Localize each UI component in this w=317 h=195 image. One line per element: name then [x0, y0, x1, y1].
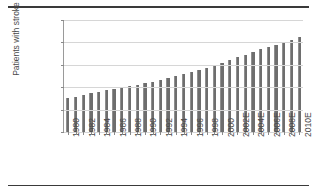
bar — [143, 83, 146, 132]
x-tick-mark — [106, 132, 107, 135]
x-tick-mark — [199, 132, 200, 135]
x-tick-mark — [237, 132, 238, 135]
bar-series — [64, 20, 303, 132]
chart-figure: Patients with stroke 3,000,0003,500,0004… — [0, 0, 317, 195]
bar — [236, 57, 239, 132]
y-gridline — [64, 20, 303, 21]
y-axis-title: Patients with stroke — [11, 0, 23, 94]
x-tick-label: 2010E — [303, 112, 313, 137]
y-gridline — [64, 65, 303, 66]
x-tick-mark — [222, 132, 223, 135]
y-tick-mark — [61, 42, 64, 43]
x-tick-mark — [160, 132, 161, 135]
x-tick-mark — [122, 132, 123, 135]
x-tick-mark — [214, 132, 215, 135]
x-tick-mark — [83, 132, 84, 135]
bar — [97, 92, 100, 132]
x-tick-mark — [114, 132, 115, 135]
y-tick-mark — [61, 132, 64, 133]
x-tick-mark — [291, 132, 292, 135]
x-tick-mark — [184, 132, 185, 135]
x-tick-mark — [276, 132, 277, 135]
top-divider-rule — [8, 6, 309, 8]
x-tick-mark — [153, 132, 154, 135]
x-tick-mark — [230, 132, 231, 135]
bar — [174, 76, 177, 132]
y-tick-mark — [61, 87, 64, 88]
y-gridline — [64, 42, 303, 43]
bar — [205, 68, 208, 133]
x-tick-mark — [145, 132, 146, 135]
x-tick-mark — [284, 132, 285, 135]
y-tick-mark — [61, 20, 64, 21]
x-tick-mark — [99, 132, 100, 135]
x-tick-mark — [91, 132, 92, 135]
bar — [298, 37, 301, 132]
bar — [190, 72, 193, 132]
x-tick-mark — [191, 132, 192, 135]
x-tick-mark — [245, 132, 246, 135]
x-tick-mark — [137, 132, 138, 135]
x-tick-mark — [68, 132, 69, 135]
y-tick-mark — [61, 65, 64, 66]
x-tick-mark — [207, 132, 208, 135]
x-tick-mark — [268, 132, 269, 135]
x-tick-mark — [168, 132, 169, 135]
x-tick-mark — [176, 132, 177, 135]
y-gridline — [64, 87, 303, 88]
bottom-divider-rule — [8, 185, 309, 186]
bar — [82, 95, 85, 132]
y-tick-mark — [61, 110, 64, 111]
plot-area: 3,000,0003,500,0004,000,0004,500,0005,00… — [63, 20, 303, 133]
bar — [267, 47, 270, 132]
x-tick-mark — [253, 132, 254, 135]
y-gridline — [64, 110, 303, 111]
bar — [220, 63, 223, 132]
x-tick-mark — [76, 132, 77, 135]
x-tick-mark — [299, 132, 300, 135]
bar — [66, 98, 69, 132]
x-tick-mark — [130, 132, 131, 135]
x-tick-mark — [261, 132, 262, 135]
